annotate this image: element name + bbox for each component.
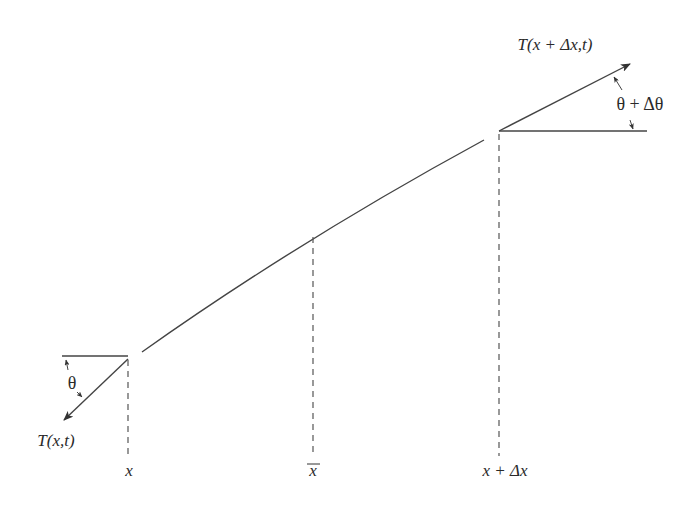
tension-right-label: T(x + Δx,t) xyxy=(518,35,593,54)
left-angle-arrow-down xyxy=(77,392,82,397)
tension-left-label: T(x,t) xyxy=(37,431,75,450)
right-angle-arrow-down xyxy=(630,120,633,129)
x-left-label: x xyxy=(124,461,133,480)
string-curve xyxy=(142,140,484,352)
string-element-diagram: T(x + Δx,t) θ + Δθ θ T(x,t) x x x + Δx xyxy=(0,0,693,508)
angle-right-label: θ + Δθ xyxy=(617,94,664,114)
left-angle-arrow-up xyxy=(66,360,68,370)
angle-left-label: θ xyxy=(68,373,77,393)
right-angle-arrow-up xyxy=(614,77,622,90)
right-tension-arrow xyxy=(499,64,630,131)
x-right-label: x + Δx xyxy=(481,461,527,480)
